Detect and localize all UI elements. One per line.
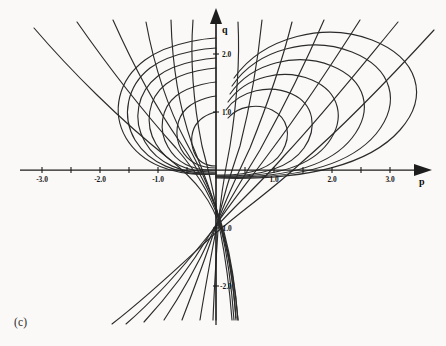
- x-tick-label--3: -3.0: [36, 175, 48, 184]
- y-tick-label--2: -2.0: [220, 282, 232, 291]
- x-axis-label: p: [419, 176, 425, 187]
- x-tick-label-2: 2.0: [327, 175, 337, 184]
- y-tick-label-1: 1.0: [222, 108, 232, 117]
- y-tick-label--1: -1.0: [220, 224, 232, 233]
- figure-panel: -3.0 -2.0 -1.0 1.0 2.0 3.0 2.0 1.0 -1.0 …: [0, 0, 446, 346]
- y-axis-label: q: [222, 24, 228, 35]
- y-tick-label-2: 2.0: [222, 50, 232, 59]
- x-tick-label--1: -1.0: [152, 175, 164, 184]
- conformal-map-plot: -3.0 -2.0 -1.0 1.0 2.0 3.0 2.0 1.0 -1.0 …: [0, 0, 446, 346]
- x-tick-label-3: 3.0: [385, 175, 395, 184]
- x-tick-label--2: -2.0: [94, 175, 106, 184]
- figure-caption: (c): [14, 316, 27, 328]
- x-tick-label-1: 1.0: [269, 175, 279, 184]
